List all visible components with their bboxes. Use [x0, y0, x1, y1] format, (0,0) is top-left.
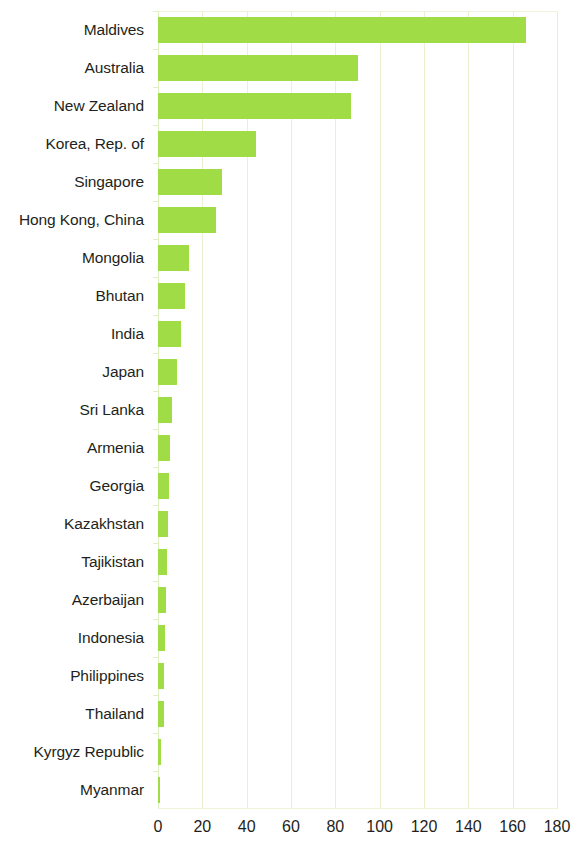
category-label: Kazakhstan	[64, 511, 144, 537]
category-tick	[153, 125, 158, 126]
bar-row	[158, 201, 557, 239]
category-tick	[153, 315, 158, 316]
category-tick	[153, 391, 158, 392]
bar-row	[158, 49, 557, 87]
bar-row	[158, 239, 557, 277]
category-tick	[153, 239, 158, 240]
bar	[158, 207, 216, 233]
bar-row	[158, 467, 557, 505]
bar	[158, 663, 164, 689]
category-tick	[153, 49, 158, 50]
value-tick-label: 180	[544, 815, 571, 839]
category-label: Azerbaijan	[72, 587, 144, 613]
bar-row	[158, 505, 557, 543]
bar	[158, 739, 161, 765]
category-tick	[153, 543, 158, 544]
bar	[158, 587, 166, 613]
category-tick	[153, 581, 158, 582]
category-tick	[153, 505, 158, 506]
value-tick-label: 80	[326, 815, 344, 839]
category-tick	[153, 163, 158, 164]
category-label: Korea, Rep. of	[45, 131, 144, 157]
bar-row	[158, 543, 557, 581]
category-label: Australia	[85, 55, 144, 81]
bar-row	[158, 277, 557, 315]
category-axis: MaldivesAustraliaNew ZealandKorea, Rep. …	[0, 11, 152, 809]
bar	[158, 473, 169, 499]
bar	[158, 131, 256, 157]
category-label: Sri Lanka	[79, 397, 144, 423]
value-axis: 020406080100120140160180	[158, 815, 557, 845]
category-tick	[153, 467, 158, 468]
bar-row	[158, 771, 557, 809]
category-label: Singapore	[74, 169, 144, 195]
bar	[158, 245, 189, 271]
bar-chart: MaldivesAustraliaNew ZealandKorea, Rep. …	[0, 0, 574, 862]
bar-row	[158, 315, 557, 353]
bar-row	[158, 429, 557, 467]
bar	[158, 283, 185, 309]
value-tick-label: 20	[193, 815, 211, 839]
category-label: Thailand	[85, 701, 144, 727]
category-label: Hong Kong, China	[19, 207, 144, 233]
category-tick	[153, 11, 158, 12]
bar	[158, 55, 358, 81]
bar	[158, 359, 177, 385]
bar-row	[158, 11, 557, 49]
category-label: Maldives	[84, 17, 144, 43]
bar-row	[158, 391, 557, 429]
value-tick-label: 60	[282, 815, 300, 839]
category-label: Mongolia	[82, 245, 144, 271]
plot-area	[158, 11, 557, 809]
category-tick	[153, 429, 158, 430]
bar	[158, 321, 181, 347]
bar-row	[158, 87, 557, 125]
category-tick	[153, 657, 158, 658]
gridline-180	[557, 11, 558, 809]
bar	[158, 17, 526, 43]
category-label: Bhutan	[95, 283, 144, 309]
bar	[158, 625, 165, 651]
value-tick-label: 160	[499, 815, 526, 839]
category-tick	[153, 201, 158, 202]
category-label: India	[111, 321, 144, 347]
bar-row	[158, 581, 557, 619]
value-tick-label: 0	[154, 815, 163, 839]
category-tick	[153, 277, 158, 278]
bar	[158, 169, 222, 195]
bar-row	[158, 125, 557, 163]
category-tick	[153, 353, 158, 354]
category-label: Indonesia	[78, 625, 144, 651]
bar	[158, 435, 170, 461]
category-label: Japan	[102, 359, 144, 385]
bar-row	[158, 353, 557, 391]
category-tick	[153, 695, 158, 696]
bar-row	[158, 619, 557, 657]
category-label: Georgia	[90, 473, 144, 499]
bar-series	[158, 11, 557, 809]
category-tick	[153, 771, 158, 772]
category-label: New Zealand	[54, 93, 144, 119]
bar	[158, 511, 168, 537]
category-tick	[153, 733, 158, 734]
bar-row	[158, 695, 557, 733]
category-label: Armenia	[87, 435, 144, 461]
bar	[158, 549, 167, 575]
plot-bottom-rule	[158, 808, 557, 809]
category-tick	[153, 87, 158, 88]
category-tick	[153, 619, 158, 620]
bar	[158, 777, 160, 803]
category-label: Kyrgyz Republic	[34, 739, 145, 765]
value-tick-label: 40	[238, 815, 256, 839]
bar-row	[158, 163, 557, 201]
bar-row	[158, 657, 557, 695]
category-label: Tajikistan	[81, 549, 144, 575]
bar	[158, 93, 351, 119]
bar-row	[158, 733, 557, 771]
value-tick-label: 140	[455, 815, 482, 839]
value-tick-label: 120	[411, 815, 438, 839]
category-label: Myanmar	[80, 777, 144, 803]
category-label: Philippines	[70, 663, 144, 689]
bar	[158, 701, 164, 727]
bar	[158, 397, 172, 423]
